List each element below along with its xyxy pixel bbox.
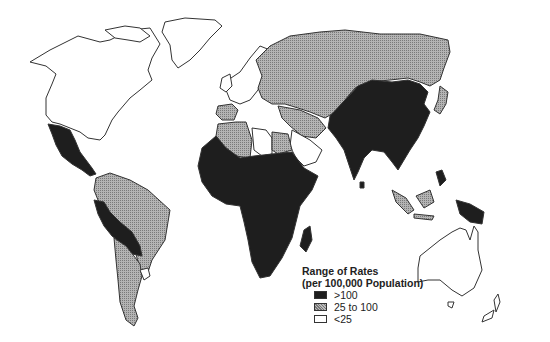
region-new-zealand <box>482 294 500 322</box>
legend-subtitle: (per 100,000 Population) <box>302 277 423 289</box>
legend-title: Range of Rates <box>302 265 423 277</box>
swatch-high-icon <box>314 291 327 299</box>
region-iberia <box>216 104 238 120</box>
swatch-mid-icon <box>314 303 327 311</box>
region-japan <box>434 86 448 114</box>
legend-item-low: <25 <box>314 313 423 325</box>
map-legend: Range of Rates (per 100,000 Population) … <box>302 265 423 325</box>
legend-label: 25 to 100 <box>334 301 378 313</box>
region-north-america <box>30 28 160 140</box>
legend-item-high: >100 <box>314 289 423 301</box>
region-papua-new-guinea <box>456 200 484 224</box>
region-tasmania <box>448 302 454 308</box>
region-australia <box>418 226 482 296</box>
region-madagascar <box>300 226 312 252</box>
legend-label: >100 <box>334 289 358 301</box>
region-greenland <box>162 18 222 68</box>
legend-label: <25 <box>334 313 352 325</box>
world-map <box>0 0 550 342</box>
region-sri-lanka <box>360 182 364 188</box>
region-philippines <box>436 170 446 186</box>
legend-item-mid: 25 to 100 <box>314 301 423 313</box>
region-indonesia <box>392 190 434 220</box>
region-libya <box>252 128 272 156</box>
region-egypt <box>272 132 292 154</box>
swatch-low-icon <box>314 315 327 323</box>
